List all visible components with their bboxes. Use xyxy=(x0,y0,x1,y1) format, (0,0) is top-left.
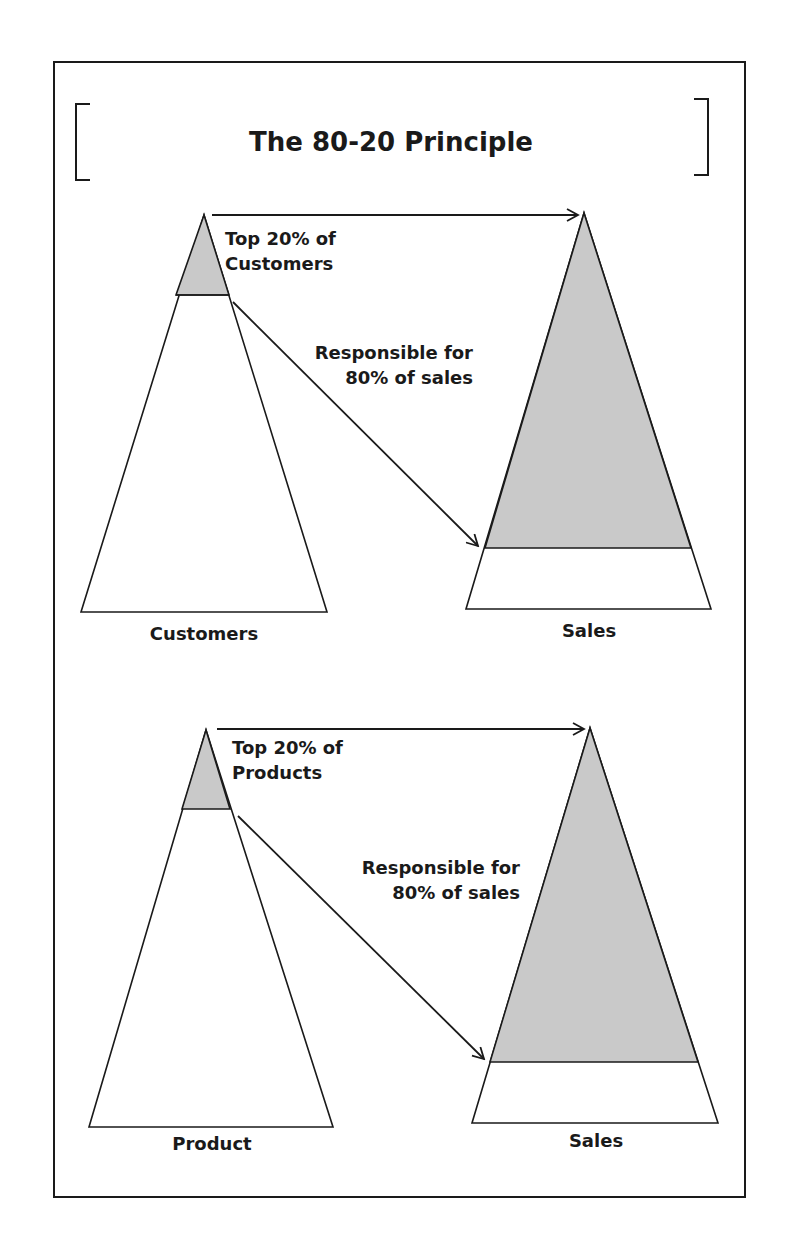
customers-top20-shade xyxy=(176,215,229,295)
left-bracket-icon xyxy=(76,104,90,180)
sales-80-shade xyxy=(490,728,698,1062)
top-label-line2: Products xyxy=(232,762,322,783)
diagram-canvas: The 80-20 Principle Top 20% of Customers… xyxy=(0,0,792,1253)
arrow-label-line2: 80% of sales xyxy=(392,882,520,903)
product-top20-shade xyxy=(182,730,230,809)
sales-80-shade xyxy=(485,213,691,548)
page-title: The 80-20 Principle xyxy=(249,127,533,157)
left-caption: Product xyxy=(172,1133,252,1154)
arrow-label-line1: Responsible for xyxy=(362,857,520,878)
right-caption: Sales xyxy=(562,620,616,641)
left-caption: Customers xyxy=(150,623,258,644)
panel-customers: Top 20% of Customers Responsible for 80%… xyxy=(81,213,711,644)
right-caption: Sales xyxy=(569,1130,623,1151)
top-label-line1: Top 20% of xyxy=(225,228,336,249)
arrow-label-line2: 80% of sales xyxy=(345,367,473,388)
right-bracket-icon xyxy=(694,99,708,175)
arrow-label-line1: Responsible for xyxy=(315,342,473,363)
panel-products: Top 20% of Products Responsible for 80% … xyxy=(89,728,718,1154)
top-label-line2: Customers xyxy=(225,253,333,274)
top-label-line1: Top 20% of xyxy=(232,737,343,758)
